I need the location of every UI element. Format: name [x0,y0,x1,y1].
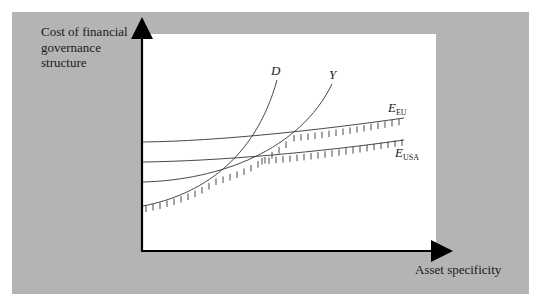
label-d: D [270,63,281,78]
label-y: Y [329,67,338,82]
curve-e-eu [143,118,404,142]
diagram-svg: D Y EEU EUSA [0,0,540,304]
curve-y [143,84,332,182]
label-e-eu: EEU [387,100,407,117]
hatch-marks [146,119,402,212]
curve-d [143,80,277,206]
label-e-usa: EUSA [394,145,419,162]
curve-e-usa [143,140,404,162]
